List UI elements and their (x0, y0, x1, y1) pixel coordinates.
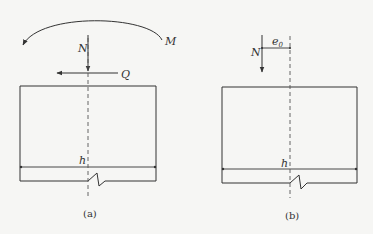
width-label: h (281, 157, 288, 170)
panel-b: N e0 h (b) (222, 35, 357, 221)
axial-force-label: N (77, 42, 88, 55)
caption-a: (a) (83, 208, 97, 219)
moment-label: M (164, 35, 177, 48)
axial-force-label: N (250, 46, 261, 59)
eccentricity-label: e0 (272, 35, 284, 49)
shear-force-label: Q (121, 68, 130, 81)
diagram-canvas: M N Q h (a) N e0 h (0, 0, 373, 234)
section-outline (222, 87, 357, 189)
width-label: h (79, 154, 86, 167)
caption-b: (b) (285, 210, 299, 221)
panel-a: M N Q h (a) (20, 21, 177, 219)
moment-arc (23, 21, 162, 45)
